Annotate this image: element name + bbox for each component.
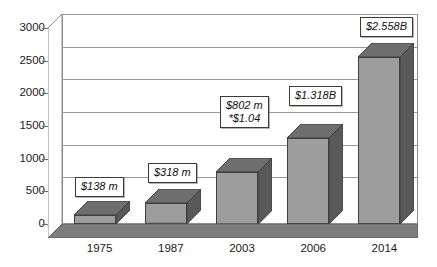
y-axis-tick-label: 3000 — [3, 22, 45, 34]
value-label-line2: *$1.04 — [226, 112, 263, 125]
y-axis-tick-mark — [42, 224, 48, 225]
y-axis-tick-label: 2000 — [3, 88, 45, 100]
bar-1975 — [74, 201, 130, 224]
x-axis-tick-label: 2006 — [300, 242, 326, 254]
value-label-1987: $318 m — [148, 163, 197, 183]
y-axis: 050010001500200025003000 — [0, 0, 45, 267]
y-axis-tick-label: 2500 — [3, 55, 45, 67]
value-label-2006: $1.318B — [289, 86, 342, 106]
bar-1987 — [145, 189, 201, 224]
bar-2014 — [358, 43, 414, 224]
y-axis-tick-mark — [42, 191, 48, 192]
y-axis-tick-label: 0 — [3, 218, 45, 230]
bar-2003 — [216, 158, 272, 224]
value-label-line1: $318 m — [154, 166, 191, 178]
value-label-line1: $802 m — [226, 99, 263, 111]
y-axis-tick-mark — [42, 28, 48, 29]
y-axis-tick-mark — [42, 61, 48, 62]
gridline — [62, 14, 418, 15]
value-label-line1: $1.318B — [295, 89, 336, 101]
y-axis-tick-mark — [42, 159, 48, 160]
bar-3d-shape — [287, 124, 343, 224]
value-label-line1: $2.558B — [366, 20, 407, 32]
x-axis-tick-label: 1987 — [158, 242, 184, 254]
value-label-2003: $802 m*$1.04 — [220, 96, 269, 128]
bar-3d-shape — [358, 43, 414, 224]
x-axis-tick-label: 1975 — [87, 242, 113, 254]
x-axis-tick-label: 2003 — [229, 242, 255, 254]
value-label-1975: $138 m — [75, 177, 124, 197]
bar-chart: 050010001500200025003000 $138 m$318 m$80… — [0, 0, 437, 267]
bar-3d-shape — [216, 158, 272, 224]
y-axis-tick-mark — [42, 93, 48, 94]
bar-3d-shape — [74, 201, 130, 224]
y-axis-tick-label: 1000 — [3, 153, 45, 165]
y-axis-tick-label: 500 — [3, 186, 45, 198]
bar-3d-shape — [145, 189, 201, 224]
x-axis-tick-label: 2014 — [372, 242, 398, 254]
value-label-line1: $138 m — [81, 180, 118, 192]
plot-area: $138 m$318 m$802 m*$1.04$1.318B$2.558B — [48, 14, 418, 238]
value-label-2014: $2.558B — [360, 17, 413, 37]
y-axis-tick-label: 1500 — [3, 120, 45, 132]
x-axis: 19751987200320062014 — [48, 240, 418, 262]
y-axis-tick-mark — [42, 126, 48, 127]
bar-2006 — [287, 124, 343, 224]
